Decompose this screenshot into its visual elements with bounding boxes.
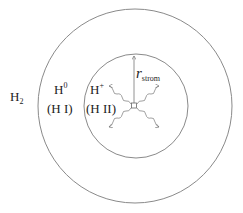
photon-arrow-upright [137, 86, 159, 104]
hplus-superscript: + [99, 81, 104, 90]
radius-subscript: strom [142, 74, 160, 83]
h0-superscript: 0 [63, 81, 67, 90]
hplus-symbol: H [90, 82, 99, 97]
h2-subscript: 2 [19, 97, 23, 106]
hii-notation: (H II) [86, 102, 116, 115]
hplus-label: H+ [90, 82, 104, 96]
h0-label: H0 [54, 82, 67, 96]
radius-label: rstrom [136, 65, 160, 83]
central-star-icon [132, 103, 137, 108]
h2-label: H2 [10, 90, 23, 106]
photon-arrow-downright [137, 108, 159, 127]
h0-symbol: H [54, 82, 63, 97]
hi-notation: (H I) [47, 102, 73, 115]
stromgren-diagram [0, 0, 243, 213]
h2-symbol: H [10, 89, 19, 104]
